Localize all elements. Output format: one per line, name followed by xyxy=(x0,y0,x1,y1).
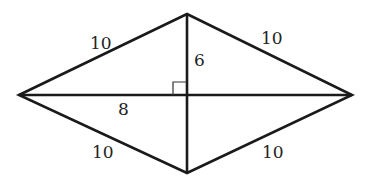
label-side-top-right: 10 xyxy=(261,28,283,48)
label-half-vertical-diagonal: 6 xyxy=(194,50,205,70)
label-side-bottom-left: 10 xyxy=(92,142,114,162)
label-half-horizontal-diagonal: 8 xyxy=(118,99,129,119)
right-angle-marker xyxy=(173,82,187,95)
rhombus-diagram: 10 10 6 8 10 10 xyxy=(0,0,371,181)
label-side-top-left: 10 xyxy=(90,33,112,53)
label-side-bottom-right: 10 xyxy=(262,142,284,162)
rhombus-outline xyxy=(19,14,352,173)
